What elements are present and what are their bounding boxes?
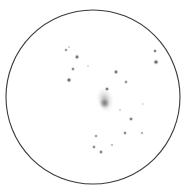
star-19 xyxy=(87,65,88,66)
star-18 xyxy=(119,109,121,111)
eyepiece-field-circle xyxy=(6,10,180,184)
star-20 xyxy=(142,103,143,104)
star-10 xyxy=(125,81,127,83)
star-14 xyxy=(95,135,97,137)
star-9 xyxy=(106,88,109,91)
star-13 xyxy=(141,132,143,134)
sketch-drawing-surface xyxy=(0,0,188,195)
star-17 xyxy=(111,144,113,146)
star-15 xyxy=(93,146,95,148)
star-8 xyxy=(115,71,118,74)
star-3 xyxy=(76,56,79,59)
star-7 xyxy=(154,60,157,63)
star-4 xyxy=(72,68,74,70)
star-16 xyxy=(100,151,103,154)
star-2 xyxy=(68,46,69,47)
star-6 xyxy=(154,50,156,52)
star-5 xyxy=(68,79,71,82)
astronomy-sketch-canvas xyxy=(0,0,188,195)
star-11 xyxy=(130,118,133,121)
star-1 xyxy=(65,49,67,51)
star-12 xyxy=(124,132,126,134)
